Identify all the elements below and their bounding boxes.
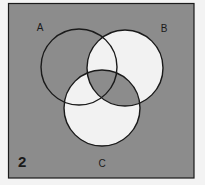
- set-a-label: A: [37, 22, 44, 33]
- set-b-label: B: [161, 23, 168, 34]
- figure-number: 2: [18, 153, 26, 170]
- set-c-label: C: [98, 158, 105, 169]
- venn-diagram: A B C 2: [0, 0, 205, 185]
